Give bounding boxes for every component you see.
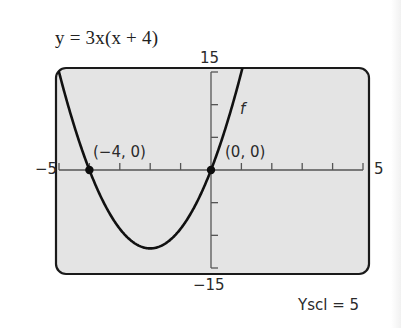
yscl-label: Yscl = 5: [298, 296, 359, 314]
xmax-label: 5: [374, 160, 384, 178]
point-label-neg4: (−4, 0): [93, 143, 146, 161]
xmin-label: −5: [35, 160, 57, 178]
intercept-point: [85, 166, 93, 174]
intercept-point: [207, 166, 215, 174]
ymin-label: −15: [193, 276, 225, 294]
ymax-label: 15: [200, 49, 219, 67]
function-label-f: f: [240, 100, 245, 118]
point-label-origin: (0, 0): [225, 143, 265, 161]
